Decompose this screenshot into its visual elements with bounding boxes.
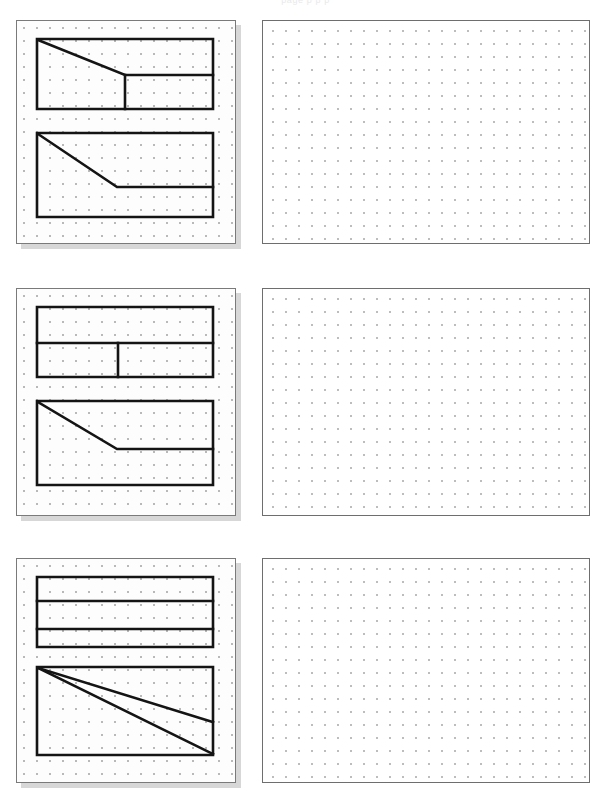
answer-area-3[interactable] xyxy=(262,558,590,783)
figure-layer-3 xyxy=(17,559,235,782)
problem-card-2[interactable] xyxy=(16,288,236,516)
figure-3b-line-1 xyxy=(38,668,213,722)
figure-3b xyxy=(37,667,213,755)
dot-grid-background xyxy=(263,21,589,243)
figure-1b xyxy=(37,133,213,217)
dot-grid-background xyxy=(263,559,589,782)
worksheet-row-1 xyxy=(0,20,611,244)
figure-1a xyxy=(37,39,213,109)
figure-3b-line-2 xyxy=(38,668,213,754)
figure-3a-outline xyxy=(37,577,213,647)
figure-2b-outline xyxy=(37,401,213,485)
figure-layer-1 xyxy=(17,21,235,243)
answer-area-1[interactable] xyxy=(262,20,590,244)
figure-2b xyxy=(37,401,213,485)
problem-card-1[interactable] xyxy=(16,20,236,244)
worksheet-row-2 xyxy=(0,288,611,516)
answer-area-2[interactable] xyxy=(262,288,590,516)
dot-grid-background xyxy=(263,289,589,515)
problem-card-3[interactable] xyxy=(16,558,236,783)
figure-1b-outline xyxy=(37,133,213,217)
figure-3a xyxy=(37,577,213,647)
worksheet xyxy=(0,0,611,793)
figure-2b-line-1 xyxy=(38,402,213,449)
figure-1b-line-1 xyxy=(38,134,213,187)
figure-layer-2 xyxy=(17,289,235,515)
figure-2a xyxy=(37,307,213,377)
figure-1a-line-1 xyxy=(38,40,213,75)
worksheet-row-3 xyxy=(0,558,611,783)
